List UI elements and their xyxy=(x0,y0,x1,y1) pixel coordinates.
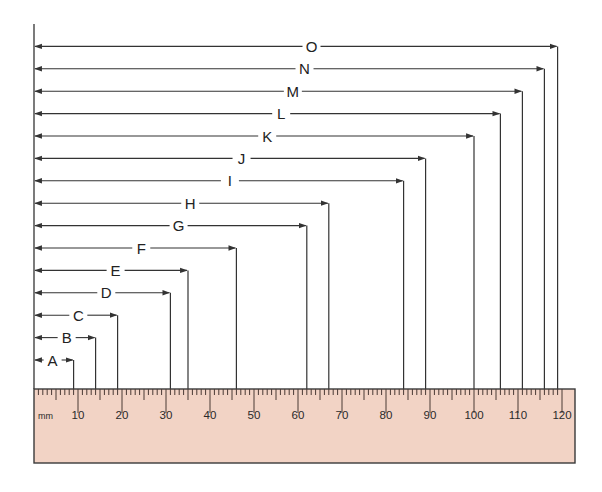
measurement-label: H xyxy=(185,195,196,212)
measurement-e: E xyxy=(35,262,188,389)
measurement-b: B xyxy=(35,329,96,389)
ruler-tick-label: 30 xyxy=(160,409,173,421)
measurement-i: I xyxy=(35,172,404,389)
measurement-d: D xyxy=(35,284,170,389)
ruler-tick-label: 60 xyxy=(292,409,305,421)
ruler-unit-label: mm xyxy=(38,411,53,421)
ruler-tick-label: 20 xyxy=(116,409,129,421)
measurement-m: M xyxy=(35,83,522,389)
measurement-c: C xyxy=(35,307,118,389)
measurement-label: B xyxy=(62,329,72,346)
ruler-tick-label: 120 xyxy=(552,409,571,421)
measurement-label: I xyxy=(228,172,232,189)
measurement-k: K xyxy=(35,128,474,390)
measurement-f: F xyxy=(35,240,236,390)
ruler-tick-label: 40 xyxy=(204,409,217,421)
measurement-label: J xyxy=(238,150,246,167)
measurement-label: N xyxy=(299,60,310,77)
measurement-label: F xyxy=(137,240,146,257)
ruler-body xyxy=(34,389,575,463)
measurement-label: D xyxy=(101,284,112,301)
measurement-label: G xyxy=(173,217,185,234)
ruler-tick-label: 70 xyxy=(336,409,349,421)
measurement-label: M xyxy=(287,83,300,100)
ruler-tick-label: 10 xyxy=(72,409,85,421)
measurement-a: A xyxy=(35,352,74,390)
measurement-l: L xyxy=(35,105,500,389)
measurement-label: L xyxy=(277,105,285,122)
ruler-tick-label: 80 xyxy=(380,409,393,421)
measurement-label: K xyxy=(262,128,272,145)
ruler: mm 102030405060708090100110120 xyxy=(34,389,575,463)
measurement-arrows: ABCDEFGHIJKLMNO xyxy=(35,38,558,389)
ruler-tick-label: 110 xyxy=(509,409,527,421)
measurement-n: N xyxy=(35,60,544,389)
ruler-tick-label: 100 xyxy=(464,409,483,421)
measurement-label: E xyxy=(111,262,121,279)
ruler-tick-label: 90 xyxy=(424,409,437,421)
ruler-tick-label: 50 xyxy=(248,409,261,421)
measurement-label: A xyxy=(48,352,58,369)
measurement-diagram: ABCDEFGHIJKLMNO mm 102030405060708090100… xyxy=(0,0,602,492)
measurement-label: C xyxy=(73,307,84,324)
measurement-label: O xyxy=(306,38,318,55)
